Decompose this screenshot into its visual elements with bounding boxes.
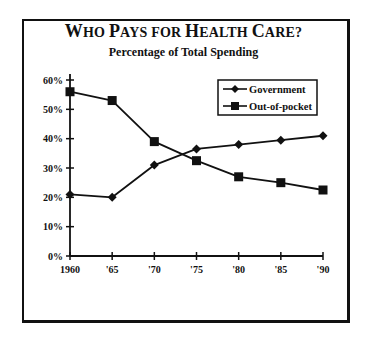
y-tick-label: 40% (43, 133, 63, 144)
series-government (66, 131, 328, 202)
plot-area: 0%10%20%30%40%50%60%1960'65'70'75'80'85'… (0, 0, 367, 341)
square-marker-icon (192, 156, 201, 165)
square-icon (231, 102, 239, 110)
diamond-marker-icon (192, 144, 201, 153)
square-marker-icon (276, 178, 285, 187)
square-marker-icon (150, 137, 159, 146)
y-tick-label: 50% (43, 104, 63, 115)
square-marker-icon (66, 87, 75, 96)
x-tick-label: '85 (274, 264, 287, 275)
y-tick-label: 20% (43, 192, 63, 203)
square-marker-icon (108, 96, 117, 105)
diamond-marker-icon (234, 140, 243, 149)
square-marker-icon (234, 172, 243, 181)
legend-label-out-of-pocket: Out-of-pocket (249, 101, 312, 112)
y-tick-label: 0% (48, 251, 63, 262)
x-tick-label: '65 (106, 264, 119, 275)
square-marker-icon (319, 186, 328, 195)
y-tick-label: 30% (43, 163, 63, 174)
y-tick-label: 60% (43, 75, 63, 86)
x-tick-label: '80 (232, 264, 245, 275)
x-tick-label: '90 (317, 264, 330, 275)
y-tick-label: 10% (43, 221, 63, 232)
legend-label-government: Government (249, 84, 306, 95)
diamond-marker-icon (276, 136, 285, 145)
legend: Government Out-of-pocket (218, 80, 317, 115)
x-tick-label: '75 (190, 264, 203, 275)
x-tick-label: '70 (148, 264, 161, 275)
diamond-marker-icon (319, 131, 328, 140)
x-tick-label: 1960 (60, 264, 80, 275)
